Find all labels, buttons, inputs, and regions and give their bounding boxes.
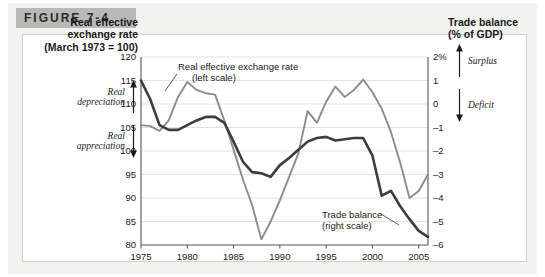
svg-text:Real effective exchange rate: Real effective exchange rate [178, 61, 298, 72]
svg-text:–4: –4 [433, 192, 444, 203]
svg-text:105: 105 [120, 122, 136, 133]
svg-text:120: 120 [120, 51, 136, 62]
svg-text:Trade balance: Trade balance [322, 209, 382, 220]
svg-text:1990: 1990 [269, 251, 290, 262]
svg-text:1985: 1985 [223, 251, 244, 262]
svg-text:2005: 2005 [408, 251, 429, 262]
svg-text:1995: 1995 [316, 251, 337, 262]
svg-text:2000: 2000 [362, 251, 383, 262]
svg-text:–6: –6 [433, 239, 444, 250]
svg-text:1: 1 [433, 75, 438, 86]
svg-text:(right scale): (right scale) [322, 220, 372, 231]
svg-text:115: 115 [121, 75, 136, 86]
svg-text:1980: 1980 [177, 251, 198, 262]
gridlines [141, 57, 428, 222]
svg-text:–3: –3 [433, 169, 444, 180]
svg-text:–5: –5 [433, 216, 444, 227]
svg-text:0: 0 [433, 98, 438, 109]
svg-text:100: 100 [120, 145, 136, 156]
inline-annotations: Real effective exchange rate(left scale)… [178, 61, 382, 231]
svg-text:85: 85 [125, 216, 136, 227]
left-axis-tick-labels: 80859095100105110115120 [120, 51, 136, 250]
svg-text:80: 80 [125, 239, 136, 250]
chart-plot: 80859095100105110115120 –6–5–4–3–2–1012%… [0, 0, 545, 277]
annotation-leader-lines [165, 74, 399, 225]
svg-text:90: 90 [125, 192, 136, 203]
right-axis-tick-labels: –6–5–4–3–2–1012% [433, 51, 447, 250]
svg-text:110: 110 [121, 98, 136, 109]
svg-text:(left scale): (left scale) [192, 72, 236, 83]
svg-text:1975: 1975 [130, 251, 151, 262]
svg-text:–2: –2 [433, 145, 444, 156]
svg-text:95: 95 [125, 169, 136, 180]
svg-text:2%: 2% [433, 51, 447, 62]
x-axis-tick-labels: 1975198019851990199520002005 [130, 251, 429, 262]
figure-container: FIGURE 7-4 Real effective exchange rate … [0, 0, 545, 277]
svg-text:–1: –1 [433, 122, 444, 133]
